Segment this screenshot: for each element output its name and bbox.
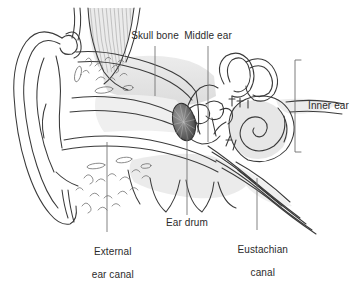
label-inner-ear: Inner ear	[308, 100, 356, 112]
label-external-ear-canal: External ear canal	[72, 234, 142, 282]
label-eustachian-canal-line1: Eustachian	[238, 244, 288, 255]
label-eustachian-canal-line2: canal	[251, 267, 275, 278]
label-eustachian-canal: Eustachian canal	[219, 232, 295, 282]
label-middle-ear: Middle ear	[177, 30, 239, 42]
label-ear-drum: Ear drum	[157, 217, 217, 229]
label-external-ear-canal-line1: External	[94, 246, 132, 257]
label-external-ear-canal-line2: ear canal	[92, 269, 134, 280]
